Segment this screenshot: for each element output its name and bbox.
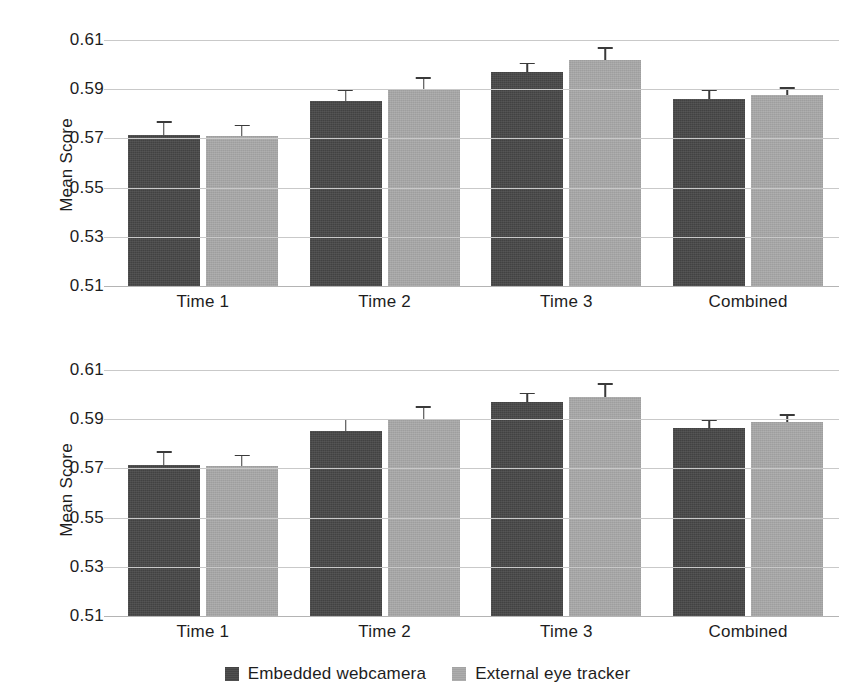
bar-slot (673, 370, 745, 616)
error-bar (241, 455, 243, 466)
bar-slot (751, 370, 823, 616)
gridline (104, 567, 839, 568)
bar-group (294, 370, 476, 616)
error-bar-cap (520, 63, 535, 65)
gridline (104, 468, 839, 469)
x-tick-label: Combined (657, 292, 839, 312)
bar-group (294, 40, 476, 286)
x-tick-label: Time 3 (476, 622, 658, 642)
bar-groups-top (112, 40, 839, 286)
bar (206, 466, 278, 616)
error-bar-cap (598, 383, 613, 385)
bar-group (657, 40, 839, 286)
chart-panel-bottom: Mean Score 0.510.530.550.570.590.61 Time… (0, 330, 855, 650)
bar-slot (673, 40, 745, 286)
bar (491, 72, 563, 286)
error-bar (163, 121, 165, 135)
legend-label: External eye tracker (475, 664, 630, 684)
bar-group (657, 370, 839, 616)
gridline (104, 138, 839, 139)
gridline (104, 518, 839, 519)
gridline (104, 370, 839, 371)
gridline (104, 89, 839, 90)
bar-slot (310, 370, 382, 616)
y-tick-label: 0.53 (70, 557, 104, 577)
error-bar-cap (520, 393, 535, 395)
bar-slot (388, 40, 460, 286)
error-bar (345, 89, 347, 101)
axis-baseline (104, 616, 839, 617)
bar (751, 422, 823, 616)
error-bar-cap (780, 414, 795, 416)
x-axis-labels-top: Time 1Time 2Time 3Combined (112, 292, 839, 312)
error-bar-cap (416, 77, 431, 79)
chart-legend: Embedded webcameraExternal eye tracker (0, 650, 855, 698)
error-bar (345, 419, 347, 431)
x-axis-labels-bottom: Time 1Time 2Time 3Combined (112, 622, 839, 642)
x-tick-label: Combined (657, 622, 839, 642)
bar-group (476, 40, 658, 286)
gridline (104, 188, 839, 189)
x-tick-label: Time 2 (294, 622, 476, 642)
error-bar-cap (416, 406, 431, 408)
bar-slot (569, 370, 641, 616)
error-bar-cap (598, 47, 613, 49)
gridline (104, 419, 839, 420)
bar-slot (491, 370, 563, 616)
y-tick-label: 0.61 (70, 360, 104, 380)
y-tick-label: 0.61 (70, 30, 104, 50)
bar (751, 95, 823, 286)
bar (206, 136, 278, 286)
x-tick-label: Time 2 (294, 292, 476, 312)
y-axis-ticks-bottom: 0.510.530.550.570.590.61 (42, 370, 104, 616)
bar-slot (206, 370, 278, 616)
legend-swatch-icon (225, 667, 239, 681)
y-tick-label: 0.51 (70, 276, 104, 296)
bar-slot (569, 40, 641, 286)
legend-item[interactable]: Embedded webcamera (225, 664, 426, 684)
error-bar (527, 393, 529, 403)
legend-item[interactable]: External eye tracker (452, 664, 630, 684)
error-bar-cap (234, 125, 249, 127)
error-bar (605, 383, 607, 397)
bar-slot (128, 370, 200, 616)
y-tick-label: 0.55 (70, 178, 104, 198)
error-bar (423, 406, 425, 418)
bar-slot (491, 40, 563, 286)
bar-group (112, 370, 294, 616)
chart-panel-top: Mean Score 0.510.530.550.570.590.61 Time… (0, 0, 855, 330)
y-tick-label: 0.59 (70, 79, 104, 99)
bar (673, 99, 745, 286)
error-bar (241, 125, 243, 136)
axis-baseline (104, 286, 839, 287)
x-tick-label: Time 3 (476, 292, 658, 312)
error-bar (708, 419, 710, 428)
y-tick-label: 0.55 (70, 508, 104, 528)
y-tick-label: 0.51 (70, 606, 104, 626)
x-tick-label: Time 1 (112, 292, 294, 312)
plot-area-bottom (112, 370, 839, 616)
bar-slot (310, 40, 382, 286)
y-tick-label: 0.57 (70, 458, 104, 478)
error-bar-cap (234, 455, 249, 457)
bar-slot (206, 40, 278, 286)
gridline (104, 40, 839, 41)
gridline (104, 237, 839, 238)
bar (569, 60, 641, 286)
y-tick-label: 0.59 (70, 409, 104, 429)
bar (128, 465, 200, 616)
bar-slot (751, 40, 823, 286)
bar (569, 397, 641, 616)
error-bar (605, 47, 607, 60)
legend-label: Embedded webcamera (248, 664, 426, 684)
bar (491, 402, 563, 616)
bar (310, 101, 382, 286)
error-bar (163, 451, 165, 465)
error-bar (527, 63, 529, 73)
error-bar-cap (156, 451, 171, 453)
figure-container: Mean Score 0.510.530.550.570.590.61 Time… (0, 0, 855, 698)
legend-swatch-icon (452, 667, 466, 681)
bar (673, 428, 745, 616)
bar-group (112, 40, 294, 286)
y-axis-ticks-top: 0.510.530.550.570.590.61 (42, 40, 104, 286)
